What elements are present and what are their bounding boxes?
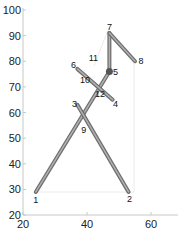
y-tick-label: 30 — [9, 183, 21, 195]
joint-label: 10 — [80, 75, 90, 85]
y-tick-label: 100 — [3, 4, 21, 16]
x-tick-label: 60 — [145, 218, 157, 230]
x-tick-label: 40 — [81, 218, 93, 230]
joint-label: 9 — [81, 125, 86, 135]
joint-label: 8 — [138, 56, 143, 66]
joint-label: 3 — [72, 99, 77, 109]
joint-label: 2 — [127, 194, 132, 204]
joint-label: 7 — [107, 22, 112, 32]
y-tick-label: 50 — [9, 132, 21, 144]
y-tick-labels: 2030405060708090100 — [3, 4, 26, 221]
joint-label: 4 — [113, 99, 118, 109]
y-tick-label: 60 — [9, 107, 21, 119]
y-tick-label: 70 — [9, 81, 21, 93]
y-tick-label: 80 — [9, 55, 21, 67]
joint-label: 12 — [95, 89, 105, 99]
y-tick-label: 40 — [9, 158, 21, 170]
joint-label: 5 — [113, 67, 118, 77]
skeleton-chart: 2030405060708090100 204060 1234567891011… — [0, 0, 180, 233]
x-tick-label: 20 — [17, 218, 29, 230]
y-tick-label: 90 — [9, 30, 21, 42]
limb-segments — [36, 33, 135, 192]
joint-label: 11 — [89, 53, 98, 63]
joint-label: 6 — [71, 60, 76, 70]
joint-label: 1 — [33, 195, 38, 205]
